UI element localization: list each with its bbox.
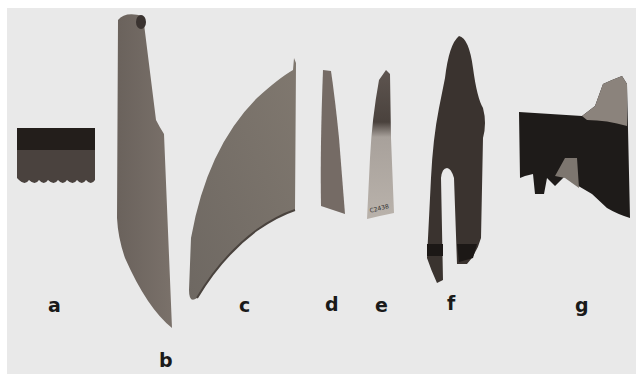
artifact-d xyxy=(321,70,345,214)
label-f: f xyxy=(447,294,455,313)
label-g: g xyxy=(575,296,589,315)
artifact-f xyxy=(427,36,485,283)
artifact-c xyxy=(189,58,296,300)
artifact-photo: C2438 xyxy=(7,8,636,374)
artifact-g xyxy=(519,76,630,218)
label-a: a xyxy=(48,296,61,315)
photo-plate: C2438 a b c d e f g xyxy=(7,8,636,374)
artifact-a xyxy=(17,128,95,183)
label-d: d xyxy=(325,295,339,314)
label-b: b xyxy=(159,351,173,370)
artifact-b xyxy=(117,14,172,328)
label-c: c xyxy=(239,296,250,315)
label-e: e xyxy=(375,296,388,315)
artifact-e: C2438 xyxy=(367,70,394,219)
